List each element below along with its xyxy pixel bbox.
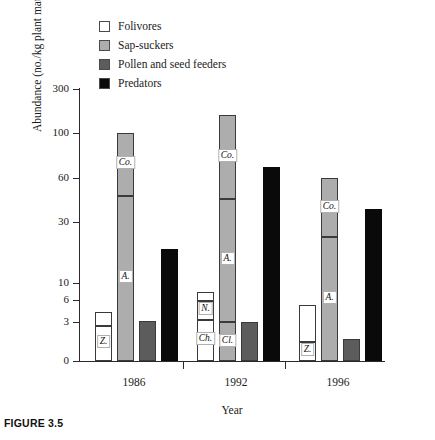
bar-segment-1992-sapsuckers-1: A.	[219, 199, 236, 322]
bar-1996-predators[interactable]	[365, 209, 382, 361]
bar-segment-label-Cl: Cl.	[219, 334, 236, 347]
bar-segment-label-A: A.	[220, 252, 234, 265]
x-axis-group-separator-1	[183, 362, 184, 369]
y-axis-tick-label-0: 0	[64, 354, 70, 367]
bar-segment-1996-folivores-0: Z.	[299, 342, 316, 362]
bar-1996-folivores[interactable]: Z.	[299, 305, 316, 361]
bar-segment-1986-sapsuckers-0: A.	[117, 196, 134, 361]
x-axis-title: Year	[79, 404, 385, 416]
legend-swatch-sap-suckers	[99, 40, 110, 51]
bar-segment-1992-predators-0	[263, 167, 280, 361]
y-axis-tick-label-10: 10	[58, 276, 69, 289]
y-axis-tick-label-100: 100	[53, 126, 70, 139]
y-axis-tick-3: 3	[73, 322, 79, 323]
y-axis-tick-6: 6	[73, 300, 79, 301]
bar-1992-pollen[interactable]	[241, 322, 258, 361]
y-axis-tick-10: 10	[73, 283, 79, 284]
y-axis-tick-label-3: 3	[64, 315, 70, 328]
y-axis-tick-label-60: 60	[58, 171, 69, 184]
y-axis-tick-300: 300	[73, 89, 79, 90]
bar-1992-folivores[interactable]: Ch.N.	[197, 292, 214, 362]
bar-1986-predators[interactable]	[161, 249, 178, 361]
bar-1986-folivores[interactable]: Z.	[95, 312, 112, 361]
bar-segment-label-Co: Co.	[320, 200, 339, 213]
bar-segment-1996-folivores-1	[299, 305, 316, 341]
bar-segment-1992-sapsuckers-0: Cl.	[219, 322, 236, 361]
bar-segment-label-Z: Z.	[301, 343, 315, 356]
y-axis-tick-label-300: 300	[53, 82, 70, 95]
bar-segment-label-N: N.	[198, 302, 213, 315]
bar-1992-sapsuckers[interactable]: Cl.A.Co.	[219, 115, 236, 361]
bar-segment-1992-pollen-0	[241, 322, 258, 361]
x-axis-group-separator-2	[285, 362, 286, 369]
bar-1996-pollen[interactable]	[343, 339, 360, 361]
bar-segment-label-Co: Co.	[116, 156, 135, 169]
bar-segment-1986-folivores-1	[95, 312, 112, 326]
plot-area: 036103060100300 Abundance (no./kg plant …	[79, 88, 385, 362]
y-axis-title: Abundance (no./kg plant material)	[31, 0, 43, 132]
x-axis-tick-label-1986: 1986	[123, 376, 146, 388]
y-axis-tick-100: 100	[73, 133, 79, 134]
y-axis-tick-0: 0	[73, 361, 79, 362]
bar-1996-sapsuckers[interactable]: A.Co.	[321, 178, 338, 361]
legend-label-sap-suckers: Sap-suckers	[118, 39, 174, 52]
bar-1986-pollen[interactable]	[139, 321, 156, 361]
y-axis-tick-label-30: 30	[58, 215, 69, 228]
y-axis-title-text: Abundance (no./kg plant material)	[31, 0, 43, 132]
bar-1986-sapsuckers[interactable]: A.Co.	[117, 133, 134, 361]
legend-swatch-pollen-and-seed-feeders	[99, 59, 110, 70]
bar-segment-1986-predators-0	[161, 249, 178, 361]
legend-swatch-folivores	[99, 21, 110, 32]
x-axis-tick-label-1996: 1996	[327, 376, 350, 388]
legend-label-folivores: Folivores	[118, 20, 161, 33]
y-axis-tick-30: 30	[73, 222, 79, 223]
bar-segment-1996-predators-0	[365, 209, 382, 361]
y-axis-line	[79, 88, 80, 362]
y-axis-tick-label-6: 6	[64, 293, 70, 306]
figure-3-5: Folivores Sap-suckers Pollen and seed fe…	[0, 0, 435, 440]
legend-item-sap-suckers: Sap-suckers	[99, 36, 309, 55]
figure-caption: FIGURE 3.5	[4, 417, 63, 429]
bar-segment-1992-folivores-2	[197, 292, 214, 301]
y-axis-tick-60: 60	[73, 178, 79, 179]
bar-segment-1992-folivores-1: N.	[197, 301, 214, 320]
legend-item-pollen-and-seed-feeders: Pollen and seed feeders	[99, 55, 309, 74]
bar-segment-1992-folivores-0: Ch.	[197, 320, 214, 361]
bar-segment-1986-folivores-0: Z.	[95, 326, 112, 361]
bar-segment-1996-pollen-0	[343, 339, 360, 361]
bar-segment-1996-sapsuckers-0: A.	[321, 237, 338, 361]
x-axis-tick-label-1992: 1992	[225, 376, 248, 388]
bar-segment-1986-pollen-0	[139, 321, 156, 361]
bar-segment-label-A: A.	[322, 291, 336, 304]
bar-segment-1992-sapsuckers-2: Co.	[219, 115, 236, 198]
bar-segment-1986-sapsuckers-1: Co.	[117, 133, 134, 196]
bar-segment-1996-sapsuckers-1: Co.	[321, 178, 338, 237]
bar-segment-label-Co: Co.	[218, 149, 237, 162]
bar-1992-predators[interactable]	[263, 167, 280, 361]
legend-item-folivores: Folivores	[99, 17, 309, 36]
bar-segment-label-Ch: Ch.	[196, 332, 215, 345]
chart-legend: Folivores Sap-suckers Pollen and seed fe…	[99, 17, 309, 93]
legend-label-pollen-and-seed-feeders: Pollen and seed feeders	[118, 58, 226, 71]
bar-segment-label-A: A.	[118, 270, 132, 283]
bar-segment-label-Z: Z.	[97, 335, 111, 348]
